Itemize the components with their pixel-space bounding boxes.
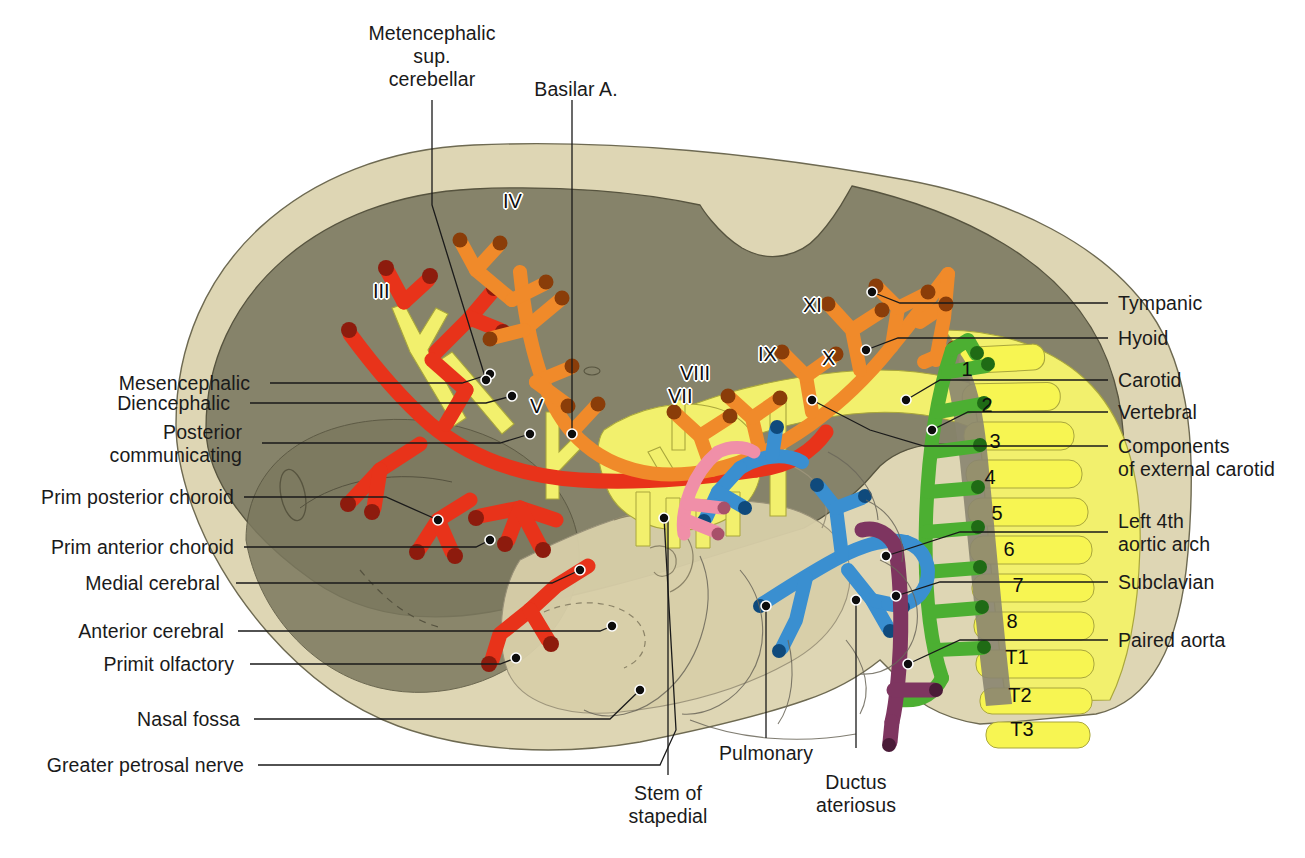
label-anterior-cerebral: Anterior cerebral	[20, 620, 224, 643]
artery-tip	[539, 275, 554, 290]
vertebral-segmental-4	[928, 488, 976, 492]
endpoint-dot	[567, 429, 577, 439]
vertebra-label-c6: 6	[997, 538, 1021, 561]
label-primit-olfactory: Primit olfactory	[20, 653, 234, 676]
endpoint-dot	[575, 565, 585, 575]
artery-tip	[535, 542, 551, 558]
artery-tip	[340, 496, 356, 512]
endpoint-dot	[607, 621, 617, 631]
artery-tip	[712, 528, 725, 541]
cranial-nerve-iv: IV	[503, 190, 522, 213]
label-paired-aorta: Paired aorta	[1118, 629, 1298, 652]
vertebra-label-c1: 1	[955, 358, 979, 381]
endpoint-dot	[433, 515, 443, 525]
label-ductus-ateriosus: Ductus ateriosus	[776, 771, 936, 817]
artery-tip	[723, 409, 738, 424]
endpoint-dot	[891, 591, 901, 601]
endpoint-dot	[867, 287, 877, 297]
artery-tip	[882, 738, 896, 752]
endpoint-dot	[659, 513, 669, 523]
cranial-nerve-x: X	[822, 347, 835, 370]
endpoint-dot	[851, 595, 861, 605]
endpoint-dot	[485, 535, 495, 545]
vertebra-label-t2: T2	[1003, 684, 1037, 707]
label-greater-petrosal-nerve: Greater petrosal nerve	[8, 754, 244, 777]
artery-tip	[973, 560, 987, 574]
label-carotid: Carotid	[1118, 369, 1298, 392]
label-left-4th-aortic-arch: Left 4th aortic arch	[1118, 510, 1298, 556]
artery-tip	[364, 504, 380, 520]
endpoint-dot	[481, 375, 491, 385]
artery-tip	[561, 399, 576, 414]
cranial-nerve-vii: VII	[668, 385, 692, 408]
vertebra-label-t1: T1	[1000, 646, 1034, 669]
artery-tip	[453, 233, 468, 248]
vertebra-label-c2: 2	[975, 394, 999, 417]
artery-tip	[875, 303, 890, 318]
label-tympanic: Tympanic	[1118, 292, 1298, 315]
label-stem-of-stapedial: Stem of stapedial	[578, 782, 758, 828]
vertebra-label-c3: 3	[983, 430, 1007, 453]
pulmonary-left-branch-2	[836, 498, 862, 508]
label-hyoid: Hyoid	[1118, 327, 1298, 350]
endpoint-dot	[761, 601, 771, 611]
anatomical-figure: Mesencephalic Diencephalic Posterior com…	[0, 0, 1305, 858]
artery-tip	[772, 644, 786, 658]
vertebral-segmental-7	[930, 608, 980, 612]
artery-tip	[929, 683, 943, 697]
label-nasal-fossa: Nasal fossa	[20, 708, 240, 731]
label-basilar-a: Basilar A.	[496, 78, 656, 101]
artery-tip	[981, 357, 995, 371]
artery-tip	[422, 268, 438, 284]
endpoint-dot	[861, 345, 871, 355]
artery-tip	[483, 332, 498, 347]
artery-tip	[497, 536, 513, 552]
endpoint-dot	[635, 685, 645, 695]
endpoint-dot	[927, 425, 937, 435]
stapedial-branch-a	[688, 504, 722, 508]
vertebra-label-t3: T3	[1005, 718, 1039, 741]
artery-tip	[447, 548, 463, 564]
cranial-nerve-iii: III	[373, 280, 390, 303]
vertebral-segmental-3	[932, 446, 978, 452]
label-prim-posterior-choroid: Prim posterior choroid	[8, 486, 234, 509]
artery-tip	[738, 501, 752, 515]
artery-tip	[810, 478, 824, 492]
label-posterior-communicating: Posterior communicating	[10, 421, 242, 467]
sixth-arch-right	[772, 430, 776, 456]
artery-tip	[921, 285, 936, 300]
yellow-nerve-stub-a	[636, 492, 650, 546]
label-subclavian: Subclavian	[1118, 571, 1298, 594]
artery-tip	[493, 236, 508, 251]
stapedial-proximal	[718, 448, 754, 453]
vertebra-label-c7: 7	[1006, 574, 1030, 597]
endpoint-dot	[525, 429, 535, 439]
label-pulmonary: Pulmonary	[686, 742, 846, 765]
endpoint-dot	[807, 395, 817, 405]
cranial-nerve-ix: IX	[758, 343, 777, 366]
label-diencephalic: Diencephalic	[20, 392, 230, 415]
cranial-nerve-viii: VIII	[680, 362, 710, 385]
artery-tip	[821, 297, 836, 312]
artery-tip	[718, 502, 731, 515]
artery-tip	[721, 389, 736, 404]
label-components-of-external-carotid: Components of external carotid	[1118, 435, 1305, 481]
endpoint-dot	[511, 653, 521, 663]
endpoint-dot	[903, 659, 913, 669]
cranial-nerve-xi: XI	[803, 294, 822, 317]
label-medial-cerebral: Medial cerebral	[20, 572, 220, 595]
artery-tip	[341, 322, 357, 338]
artery-tip	[591, 397, 606, 412]
vertebra-label-c5: 5	[985, 502, 1009, 525]
artery-tip	[378, 260, 394, 276]
label-vertebral: Vertebral	[1118, 401, 1298, 424]
artery-tip	[543, 636, 559, 652]
endpoint-dot	[901, 395, 911, 405]
choroid-post-branch-3	[374, 470, 380, 508]
artery-tip	[977, 640, 991, 654]
artery-tip	[773, 391, 788, 406]
label-prim-anterior-choroid: Prim anterior choroid	[8, 536, 234, 559]
artery-tip	[975, 600, 989, 614]
artery-tip	[468, 510, 484, 526]
vertebra-label-c4: 4	[978, 466, 1002, 489]
